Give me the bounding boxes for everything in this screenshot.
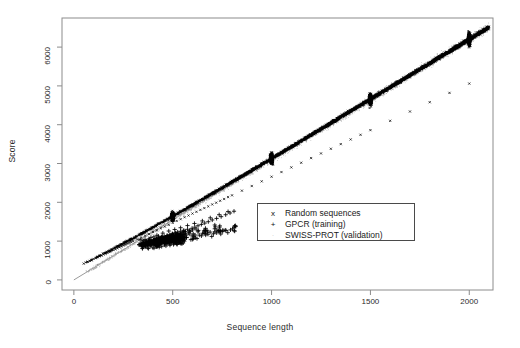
scatter-plot-canvas	[0, 0, 520, 348]
y-tick-label: 3000	[44, 164, 53, 182]
y-tick-label: 0	[44, 280, 53, 284]
axis-tick-marks	[57, 47, 469, 295]
x-tick-label: 1500	[362, 297, 380, 306]
legend-item-swiss-prot-validation: · SWISS-PROT (validation)	[258, 230, 414, 241]
chart-figure: Sequence length Score 0500100015002000 0…	[0, 0, 520, 348]
legend-marker-plus-icon: +	[266, 219, 280, 230]
chart-legend: x Random sequences + GPCR (training) · S…	[257, 203, 415, 241]
legend-label-gpcr-training: GPCR (training)	[285, 219, 345, 230]
x-tick-label: 500	[166, 297, 179, 306]
legend-label-swiss-prot-validation: SWISS-PROT (validation)	[285, 230, 383, 241]
y-tick-label: 4000	[44, 125, 53, 143]
x-tick-label: 1000	[263, 297, 281, 306]
legend-marker-x-icon: x	[266, 208, 280, 219]
y-tick-label: 2000	[44, 202, 53, 220]
y-tick-label: 6000	[44, 47, 53, 65]
y-tick-label: 1000	[44, 241, 53, 259]
x-tick-label: 2000	[460, 297, 478, 306]
legend-item-random-sequences: x Random sequences	[258, 208, 414, 219]
legend-marker-dot-icon: ·	[266, 230, 280, 241]
y-tick-label: 5000	[44, 86, 53, 104]
legend-label-random-sequences: Random sequences	[285, 208, 361, 219]
x-axis-title: Sequence length	[0, 322, 520, 332]
y-axis-title: Score	[7, 121, 17, 181]
legend-item-gpcr-training: + GPCR (training)	[258, 219, 414, 230]
x-tick-label: 0	[72, 297, 76, 306]
